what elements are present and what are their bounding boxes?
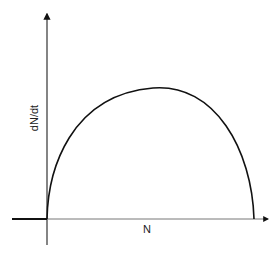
y-axis-label: dN/dt bbox=[28, 105, 40, 131]
x-axis-label: N bbox=[143, 223, 151, 235]
growth-rate-curve bbox=[47, 88, 254, 219]
diagram-canvas: dN/dt N bbox=[0, 0, 280, 256]
